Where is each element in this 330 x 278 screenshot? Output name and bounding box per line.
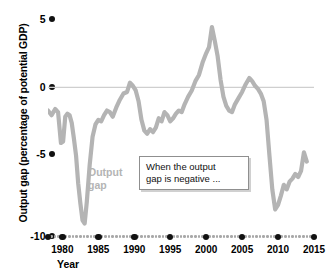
- x-axis-minor-dot: [115, 235, 118, 238]
- x-axis-minor-dot: [79, 235, 82, 238]
- x-axis-minor-dot: [86, 235, 89, 238]
- x-axis-minor-dot: [212, 235, 215, 238]
- x-axis-minor-dot: [216, 235, 219, 238]
- x-tick-label-2000: 2000: [186, 244, 226, 255]
- x-axis-minor-dot: [104, 235, 107, 238]
- x-axis-origin-dot: [45, 234, 52, 241]
- x-axis-minor-dot: [176, 235, 179, 238]
- x-axis-minor-dot: [198, 235, 201, 238]
- x-axis-minor-dot: [180, 235, 183, 238]
- series-label-line2: gap: [88, 179, 122, 192]
- x-axis-minor-dot: [223, 235, 226, 238]
- x-axis-minor-dot: [155, 235, 158, 238]
- x-axis-minor-dot: [183, 235, 186, 238]
- series-label-output-gap: Output gap: [88, 166, 122, 191]
- plot-area: [48, 10, 314, 242]
- x-axis-minor-dot: [108, 235, 111, 238]
- x-tick-dot-2005: [239, 234, 246, 241]
- x-axis-minor-dot: [302, 235, 305, 238]
- x-axis-minor-dot: [190, 235, 193, 238]
- x-tick-label-2005: 2005: [222, 244, 262, 255]
- y-axis-title: Output gap (percentage of potential GDP): [15, 0, 31, 248]
- x-axis-minor-dot: [298, 235, 301, 238]
- x-axis-minor-dot: [266, 235, 269, 238]
- x-axis-minor-dot: [72, 235, 75, 238]
- x-tick-dot-1990: [131, 234, 138, 241]
- x-axis-minor-dot: [306, 235, 309, 238]
- annotation-line1: When the output: [146, 161, 243, 173]
- x-tick-label-2010: 2010: [258, 244, 298, 255]
- x-axis-minor-dot: [230, 235, 233, 238]
- annotation-line2: gap is negative ...: [146, 173, 243, 185]
- plot-svg: [48, 10, 314, 242]
- x-axis-minor-dot: [90, 235, 93, 238]
- x-axis-minor-dot: [126, 235, 129, 238]
- x-axis-minor-dot: [284, 235, 287, 238]
- x-axis-minor-dot: [248, 235, 251, 238]
- x-axis-minor-dot: [252, 235, 255, 238]
- x-axis-minor-dot: [288, 235, 291, 238]
- x-axis-minor-dot: [226, 235, 229, 238]
- x-axis-minor-dot: [54, 235, 57, 238]
- output-gap-line: [48, 27, 307, 223]
- x-axis-minor-dot: [75, 235, 78, 238]
- x-axis-minor-dot: [291, 235, 294, 238]
- x-axis-minor-dot: [151, 235, 154, 238]
- x-axis-minor-dot: [255, 235, 258, 238]
- x-axis-minor-dot: [219, 235, 222, 238]
- x-axis-minor-dot: [119, 235, 122, 238]
- x-tick-dot-1995: [167, 234, 174, 241]
- x-tick-dot-2000: [203, 234, 210, 241]
- x-tick-label-1990: 1990: [114, 244, 154, 255]
- y-tick-minus5-label: -5: [36, 148, 48, 160]
- x-axis-minor-dot: [162, 235, 165, 238]
- x-axis-title: Year: [57, 258, 79, 270]
- x-axis-minor-dot: [122, 235, 125, 238]
- x-tick-dot-1980: [59, 234, 66, 241]
- x-axis-minor-dot: [194, 235, 197, 238]
- x-axis-minor-dot: [68, 235, 71, 238]
- x-axis-minor-dot: [144, 235, 147, 238]
- x-axis-minor-dot: [262, 235, 265, 238]
- x-axis-minor-dot: [187, 235, 190, 238]
- x-tick-dot-1985: [95, 234, 102, 241]
- annotation-callout: When the output gap is negative ...: [139, 156, 249, 190]
- x-tick-label-1980: 1980: [42, 244, 82, 255]
- x-tick-label-1985: 1985: [78, 244, 118, 255]
- x-axis-minor-dot: [158, 235, 161, 238]
- x-axis-minor-dot: [147, 235, 150, 238]
- x-axis-minor-dot: [259, 235, 262, 238]
- x-axis-minor-dot: [83, 235, 86, 238]
- series-label-line1: Output: [88, 166, 122, 179]
- x-tick-dot-2010: [275, 234, 282, 241]
- x-axis-dotted-baseline: [48, 232, 314, 242]
- x-axis-minor-dot: [234, 235, 237, 238]
- x-tick-label-1995: 1995: [150, 244, 190, 255]
- x-tick-dot-2015: [311, 234, 318, 241]
- x-axis-minor-dot: [111, 235, 114, 238]
- x-tick-label-2015: 2015: [294, 244, 330, 255]
- x-axis-minor-dot: [140, 235, 143, 238]
- x-axis-minor-dot: [295, 235, 298, 238]
- x-axis-minor-dot: [270, 235, 273, 238]
